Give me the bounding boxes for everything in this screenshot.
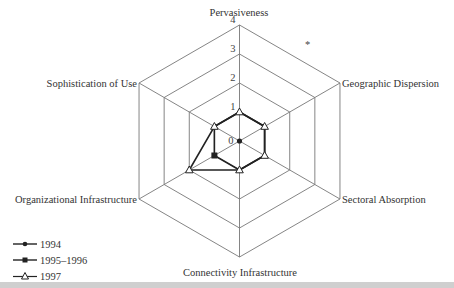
axis-label-2: Sectoral Absorption <box>342 194 426 205</box>
bottom-band <box>0 282 454 288</box>
legend: 1994 1995–1996 1997 <box>12 236 87 284</box>
filled-square-marker-icon <box>12 255 38 265</box>
tick-label: 0 <box>228 135 233 146</box>
tick-label: 3 <box>230 43 235 54</box>
axis-label-3: Connectivity Infrastructure <box>183 267 297 278</box>
marker-triangle <box>211 123 219 130</box>
legend-label: 1994 <box>40 239 61 250</box>
marker-triangle <box>261 123 269 130</box>
legend-label: 1995–1996 <box>40 255 87 266</box>
legend-item-1995-1996: 1995–1996 <box>12 252 87 268</box>
series-line-1997 <box>189 112 264 170</box>
legend-label: 1997 <box>40 271 61 282</box>
axis-label-0: Pervasiveness <box>210 7 269 18</box>
marker-circle <box>237 138 242 143</box>
marker-triangle <box>236 108 244 115</box>
tick-label: 1 <box>230 101 235 112</box>
axis-label-4: Organizational Infrastructure <box>15 194 137 205</box>
filled-circle-marker-icon <box>12 239 38 249</box>
legend-item-1994: 1994 <box>12 236 87 252</box>
axis-label-1: Geographic Dispersion <box>342 78 440 89</box>
marker-triangle <box>261 152 269 159</box>
marker-square <box>211 153 217 159</box>
axis-label-5: Sophistication of Use <box>47 78 138 89</box>
stray-mark: * <box>305 39 310 50</box>
open-triangle-marker-icon <box>12 271 38 281</box>
tick-label: 2 <box>230 72 235 83</box>
